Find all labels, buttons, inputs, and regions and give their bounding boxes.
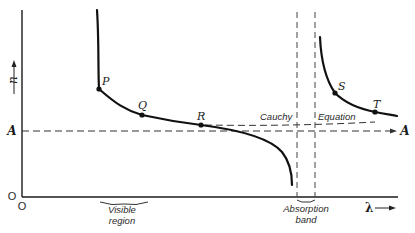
- point-label-t: T: [373, 98, 382, 111]
- dispersion-diagram: n O O A A Cauchy Equation P Q R S T Visi…: [0, 0, 415, 233]
- absorption-band-label-line2: band: [295, 214, 317, 225]
- x-axis-label: λ: [365, 201, 373, 215]
- dispersion-curve-left: [97, 10, 292, 185]
- x-axis-label-group: λ: [365, 201, 396, 215]
- point-label-r: R: [196, 110, 205, 123]
- asymptote-label-right: A: [399, 124, 409, 138]
- asymptote-label-left: A: [6, 124, 16, 138]
- visible-region-label-line1: Visible: [108, 204, 136, 215]
- equation-label: Equation: [318, 111, 356, 122]
- asymptote-arrow-icon: [390, 129, 397, 134]
- point-s: S: [332, 80, 346, 96]
- y-axis-label-group: n: [6, 60, 20, 94]
- origin-label-left: O: [8, 190, 17, 202]
- point-label-q: Q: [138, 99, 147, 112]
- cauchy-label: Cauchy: [260, 111, 293, 122]
- lambda-arrow-right-icon: [389, 206, 396, 211]
- visible-region-label-line2: region: [109, 215, 135, 226]
- dispersion-curve-right: [320, 37, 397, 116]
- cauchy-curve: [205, 122, 375, 125]
- absorption-band-brace: [297, 200, 315, 202]
- y-axis-label: n: [6, 76, 20, 84]
- origin-label-bottom: O: [18, 200, 27, 212]
- point-label-p: P: [101, 75, 110, 88]
- point-label-s: S: [338, 80, 346, 93]
- absorption-band-label-line1: Absorption: [282, 203, 328, 214]
- n-arrow-up-icon: [12, 60, 17, 67]
